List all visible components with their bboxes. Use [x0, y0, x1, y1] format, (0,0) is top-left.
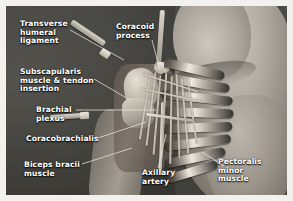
label-brachial-plexus: Brachial plexus [36, 106, 72, 123]
label-axillary-artery: Axillary artery [142, 169, 175, 186]
leader-axillary-artery [158, 134, 166, 168]
label-coracobrachialis: Coracobrachialis [26, 135, 99, 144]
leader-biceps-bracii [82, 148, 132, 164]
label-biceps-bracii: Biceps bracii muscle [24, 161, 80, 178]
leader-coracoid-process [152, 40, 160, 70]
leader-coracobrachialis [98, 122, 146, 138]
dissection-photograph: Transverse humeral ligament Coracoid pro… [6, 6, 287, 195]
label-coracoid-process: Coracoid process [116, 23, 154, 40]
label-pectoralis-minor: Pectoralis minor muscle [218, 158, 262, 184]
leader-subscapularis [94, 79, 130, 100]
figure-page: Transverse humeral ligament Coracoid pro… [0, 0, 293, 201]
label-transverse-humeral-ligament: Transverse humeral ligament [20, 20, 68, 46]
label-subscapularis: Subscapularis muscle & tendon insertion [20, 68, 94, 94]
